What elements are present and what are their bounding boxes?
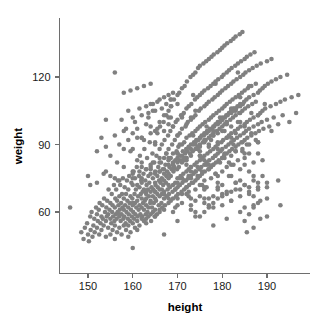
data-point — [220, 203, 225, 208]
data-point — [213, 81, 218, 86]
data-point — [130, 171, 135, 176]
data-point — [186, 174, 191, 179]
data-point — [180, 115, 185, 120]
data-point — [240, 149, 245, 154]
data-point — [126, 108, 131, 113]
data-point — [126, 234, 131, 239]
data-point — [104, 117, 109, 122]
data-point — [104, 234, 109, 239]
data-point — [198, 194, 203, 199]
data-point — [231, 106, 236, 111]
data-point — [247, 169, 252, 174]
data-point — [242, 124, 247, 129]
data-point — [106, 187, 111, 192]
y-axis-tick-label: 120 — [32, 71, 50, 83]
data-point — [193, 210, 198, 215]
data-point — [247, 185, 252, 190]
data-point — [168, 115, 173, 120]
data-point — [95, 149, 100, 154]
data-point — [191, 133, 196, 138]
data-point — [229, 124, 234, 129]
data-point — [128, 88, 133, 93]
data-point — [95, 225, 100, 230]
data-point — [128, 149, 133, 154]
data-point — [120, 192, 125, 197]
data-point — [238, 178, 243, 183]
data-point — [125, 178, 130, 183]
data-point — [247, 192, 252, 197]
data-point — [269, 57, 274, 62]
data-point — [233, 131, 238, 136]
data-point — [171, 210, 176, 215]
data-point — [164, 102, 169, 107]
data-point — [202, 210, 207, 215]
data-point — [117, 178, 122, 183]
data-point — [224, 120, 229, 125]
data-point — [229, 189, 234, 194]
data-point — [122, 165, 127, 170]
data-point — [96, 207, 101, 212]
data-point — [171, 160, 176, 165]
data-point — [148, 124, 153, 129]
data-point — [89, 210, 94, 215]
data-point — [184, 162, 189, 167]
data-point — [162, 138, 167, 143]
data-point — [220, 192, 225, 197]
data-point — [202, 178, 207, 183]
data-point — [113, 223, 118, 228]
data-point — [185, 79, 190, 84]
data-point — [260, 158, 265, 163]
data-point — [130, 221, 135, 226]
data-point — [224, 216, 229, 221]
data-point — [249, 131, 254, 136]
data-point — [236, 158, 241, 163]
data-point — [81, 237, 86, 242]
data-point — [229, 174, 234, 179]
data-point — [144, 167, 149, 172]
data-point — [164, 151, 169, 156]
data-point — [157, 97, 162, 102]
data-point — [224, 135, 229, 140]
data-point — [162, 207, 167, 212]
data-point — [220, 183, 225, 188]
data-point — [209, 138, 214, 143]
data-point — [144, 104, 149, 109]
data-point — [108, 174, 113, 179]
data-point — [106, 212, 111, 217]
data-point — [144, 189, 149, 194]
data-point — [149, 219, 154, 224]
data-point — [130, 196, 135, 201]
data-point — [242, 205, 247, 210]
data-point — [148, 81, 153, 86]
data-point — [260, 174, 265, 179]
data-point — [126, 138, 131, 143]
data-point — [265, 185, 270, 190]
data-point — [157, 160, 162, 165]
data-point — [86, 232, 91, 237]
data-point — [171, 124, 176, 129]
data-point — [177, 165, 182, 170]
data-point — [177, 90, 182, 95]
data-point — [117, 225, 122, 230]
data-point — [251, 115, 256, 120]
y-axis-title: weight — [12, 128, 24, 166]
data-point — [222, 129, 227, 134]
data-point — [100, 203, 105, 208]
data-point — [157, 169, 162, 174]
data-point — [233, 187, 238, 192]
data-point — [119, 201, 124, 206]
data-point — [88, 214, 93, 219]
data-point — [141, 171, 146, 176]
data-point — [88, 228, 93, 233]
data-point — [186, 194, 191, 199]
data-point — [242, 162, 247, 167]
data-point — [112, 183, 117, 188]
data-point — [153, 214, 158, 219]
data-point — [256, 187, 261, 192]
data-point — [247, 95, 252, 100]
data-point — [166, 122, 171, 127]
data-point — [215, 140, 220, 145]
data-point — [162, 192, 167, 197]
x-axis-tick-label: 180 — [213, 280, 231, 292]
data-point — [215, 180, 220, 185]
